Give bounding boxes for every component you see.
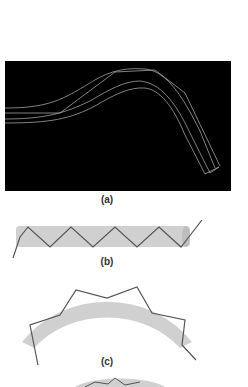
curved-guide	[22, 302, 192, 348]
panel-c-label: (c)	[92, 356, 122, 367]
panel-b-label: (b)	[92, 256, 122, 267]
straight-guide	[16, 226, 190, 247]
panel-a-wireframe	[5, 61, 231, 191]
panel-a-label: (a)	[92, 194, 122, 205]
panel-b-diagram	[0, 220, 248, 280]
panel-d-partial	[0, 377, 248, 387]
bent-guide-wireframe	[5, 61, 231, 191]
panel-c-diagram	[0, 280, 248, 370]
